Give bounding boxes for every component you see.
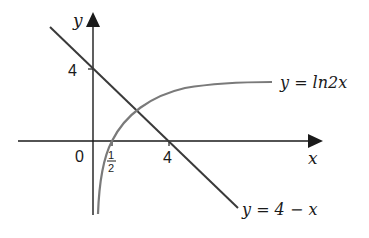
x-axis-arrow-icon	[308, 134, 323, 148]
graph-canvas: y x 0 4 4 1 2 y = ln2x y = 4 − x	[0, 0, 369, 238]
y-tick-label-4: 4	[68, 62, 77, 79]
curve-y-equals-ln2x	[98, 82, 272, 214]
log-curve-equation-label: y = ln2x	[279, 73, 347, 92]
x-tick-label-half-denominator: 2	[108, 162, 114, 174]
origin-label: 0	[75, 148, 84, 165]
x-tick-label-4: 4	[163, 149, 172, 166]
line-equation-label: y = 4 − x	[241, 200, 317, 219]
y-axis-arrow-icon	[86, 12, 100, 27]
y-axis-label: y	[72, 10, 83, 30]
x-tick-label-half-numerator: 1	[108, 149, 114, 161]
x-axis-label: x	[308, 148, 318, 168]
line-y-equals-4-minus-x	[50, 27, 238, 208]
